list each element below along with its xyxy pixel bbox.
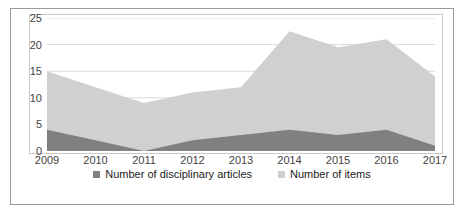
x-tick-label: 2012 [180,155,204,166]
legend-label: Number of items [290,169,371,180]
y-tick-label: 15 [30,66,42,77]
x-tick-label: 2010 [83,155,107,166]
chart-container: 0510152025 20092010201120122013201420152… [10,8,454,205]
legend-item-number-of-items: Number of items [278,169,371,180]
x-tick-label: 2015 [326,155,350,166]
x-tick-label: 2011 [132,155,156,166]
x-tick-label: 2017 [423,155,447,166]
y-tick-label: 25 [30,13,42,24]
chart-legend: Number of disciplinary articles Number o… [11,169,453,180]
y-tick-label: 20 [30,39,42,50]
legend-label: Number of disciplinary articles [105,169,252,180]
legend-swatch-icon [278,171,285,178]
plot-area: 0510152025 20092010201120122013201420152… [47,18,435,151]
legend-item-disciplinary-articles: Number of disciplinary articles [93,169,252,180]
x-tick-label: 2016 [374,155,398,166]
legend-swatch-icon [93,171,100,178]
y-tick-label: 5 [36,119,42,130]
x-tick-label: 2014 [277,155,301,166]
x-tick-label: 2013 [229,155,253,166]
y-tick-label: 10 [30,92,42,103]
x-tick-label: 2009 [35,155,59,166]
stacked-area-svg [47,18,435,151]
